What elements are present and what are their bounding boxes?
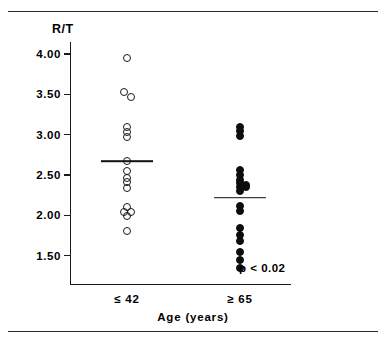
y-axis-tick: [64, 174, 71, 175]
y-axis-tick-label: 2.50: [1, 169, 61, 181]
y-axis-tick: [64, 53, 71, 54]
y-axis-tick: [64, 215, 71, 216]
x-axis-title: Age (years): [0, 311, 386, 323]
p-value-annotation: p < 0.02: [239, 262, 286, 274]
data-point: [236, 187, 244, 195]
data-point: [236, 132, 244, 140]
y-axis-tick-label: 2.00: [1, 209, 61, 221]
x-axis-category-label: ≥ 65: [227, 293, 253, 305]
y-axis-tick-label: 4.00: [1, 48, 61, 60]
data-point: [236, 207, 244, 215]
y-axis-title: R/T: [52, 22, 74, 36]
y-axis-tick: [64, 134, 71, 135]
y-axis-tick: [64, 94, 71, 95]
scatter-plot: R/T 4.003.503.002.502.001.50 ≤ 42≥ 65 Ag…: [0, 0, 386, 345]
y-axis-tick-label: 1.50: [1, 250, 61, 262]
y-axis-tick-label: 3.00: [1, 129, 61, 141]
x-axis-line: [70, 284, 291, 285]
y-axis-tick: [64, 255, 71, 256]
figure-container: R/T 4.003.503.002.502.001.50 ≤ 42≥ 65 Ag…: [0, 0, 386, 345]
data-point: [123, 212, 131, 220]
data-point: [123, 54, 131, 62]
x-axis-category-label: ≤ 42: [114, 293, 140, 305]
mean-line: [101, 161, 153, 163]
y-axis-tick-label: 3.50: [1, 88, 61, 100]
mean-line: [214, 197, 266, 199]
data-point: [123, 184, 131, 192]
data-point: [123, 227, 131, 235]
data-point: [236, 237, 244, 245]
data-point: [123, 133, 131, 141]
y-axis-line: [70, 42, 71, 285]
data-point: [236, 248, 244, 256]
data-point: [127, 93, 135, 101]
